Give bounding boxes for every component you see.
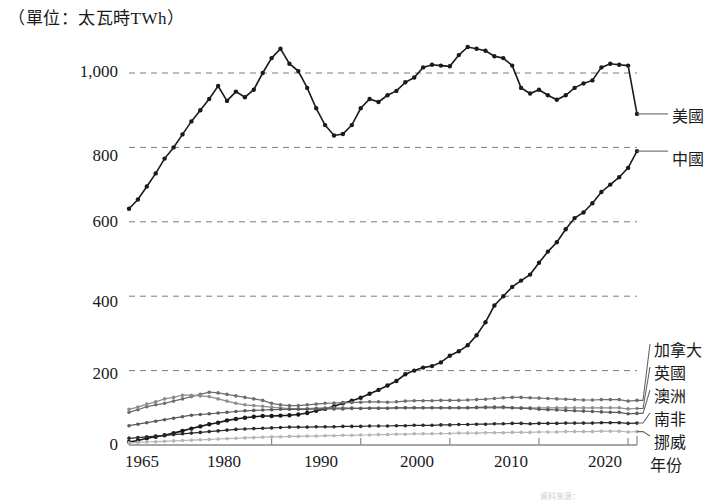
series-marker (181, 397, 185, 401)
series-marker (430, 432, 434, 436)
series-marker (403, 80, 407, 84)
series-marker (519, 278, 523, 282)
series-marker (252, 436, 256, 440)
series-marker (430, 424, 434, 428)
series-marker (171, 145, 175, 149)
series-marker (403, 372, 407, 376)
series-marker (359, 396, 363, 400)
series-marker (181, 393, 185, 397)
plot-canvas (0, 0, 719, 503)
series-marker (412, 399, 416, 403)
series-marker (261, 427, 265, 431)
series-marker (475, 431, 479, 435)
series-line-2 (129, 392, 637, 412)
series-marker (546, 430, 550, 434)
series-marker (582, 398, 586, 402)
series-marker (457, 406, 461, 410)
series-marker (626, 63, 630, 67)
series-marker (297, 425, 301, 429)
series-marker (457, 53, 461, 57)
series-marker (154, 419, 158, 423)
series-marker (555, 98, 559, 102)
series-marker (609, 398, 613, 402)
series-marker (163, 402, 167, 406)
series-marker (243, 396, 247, 400)
series-marker (439, 406, 443, 410)
series-marker (198, 108, 202, 112)
series-marker (136, 422, 140, 426)
series-marker (314, 402, 318, 406)
series-marker (243, 409, 247, 413)
series-marker (385, 93, 389, 97)
series-marker (332, 407, 336, 411)
series-marker (430, 399, 434, 403)
series-marker (252, 404, 256, 408)
series-marker (466, 45, 470, 49)
series-marker (341, 407, 345, 411)
series-marker (377, 406, 381, 410)
series-marker (608, 62, 612, 66)
series-marker (163, 440, 167, 444)
series-marker (314, 425, 318, 429)
series-marker (617, 421, 621, 425)
series-marker (484, 397, 488, 401)
series-marker (172, 399, 176, 403)
series-marker (395, 432, 399, 436)
series-marker (421, 365, 425, 369)
series-marker (359, 425, 363, 429)
series-marker (190, 438, 194, 442)
series-marker (314, 407, 318, 411)
series-marker (439, 360, 443, 364)
series-marker (394, 379, 398, 383)
series-marker (225, 399, 229, 403)
series-marker (279, 435, 283, 439)
series-marker (626, 422, 630, 426)
series-marker (314, 106, 318, 110)
series-marker (448, 399, 452, 403)
gridlines (129, 73, 637, 371)
series-marker (252, 397, 256, 401)
series-marker (190, 431, 194, 435)
series-marker (404, 399, 408, 403)
series-marker (225, 428, 229, 432)
series-marker (591, 430, 595, 434)
series-marker (216, 429, 220, 433)
series-marker (252, 415, 256, 419)
series-marker (305, 411, 309, 415)
series-marker (573, 398, 577, 402)
series-marker (591, 410, 595, 414)
series-marker (305, 408, 309, 412)
series-marker (189, 119, 193, 123)
series-marker (145, 435, 149, 439)
series-marker (225, 99, 229, 103)
series-marker (591, 398, 595, 402)
series-marker (323, 402, 327, 406)
series-marker (172, 439, 176, 443)
series-marker (216, 397, 220, 401)
series-marker (207, 395, 211, 399)
series-marker (350, 407, 354, 411)
series-marker (582, 421, 586, 425)
series-marker (590, 201, 594, 205)
series-marker (270, 408, 274, 412)
series-marker (261, 414, 265, 418)
series-marker (332, 425, 336, 429)
series-marker (288, 435, 292, 439)
series-marker (564, 397, 568, 401)
series-marker (412, 424, 416, 428)
series-marker (457, 431, 461, 435)
series-marker (376, 100, 380, 104)
series-marker (466, 398, 470, 402)
series-marker (466, 431, 470, 435)
series-marker (199, 438, 203, 442)
series-marker (243, 416, 247, 420)
series-marker (377, 433, 381, 437)
series-marker (216, 421, 220, 425)
series-marker (555, 430, 559, 434)
series-marker (136, 405, 140, 409)
series-marker (261, 71, 265, 75)
series-marker (492, 54, 496, 58)
series-marker (305, 86, 309, 90)
series-marker (323, 123, 327, 127)
series-marker (474, 333, 478, 337)
